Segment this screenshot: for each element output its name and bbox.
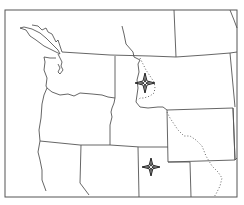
map-canvas	[0, 0, 244, 205]
ut-co-border	[190, 162, 191, 197]
nd-border-east	[230, 53, 235, 107]
or-coast	[38, 57, 47, 191]
or-south-border	[40, 141, 110, 145]
id-mt-border	[122, 26, 167, 110]
wyoming-border	[167, 108, 235, 162]
state-borders	[38, 10, 237, 197]
map-frame	[5, 10, 237, 197]
id-south-border	[110, 145, 168, 147]
mt-nd-border	[174, 10, 176, 57]
star-marker-south[interactable]	[142, 158, 160, 176]
sd-east-border	[233, 108, 235, 160]
coastline-detail	[20, 25, 63, 74]
nv-ut-border	[138, 147, 139, 197]
vancouver-island	[20, 27, 60, 54]
dotted-boundary	[138, 58, 222, 197]
ca-nv-border	[80, 145, 89, 195]
puget-sound	[58, 54, 63, 74]
wa-or-border	[47, 88, 115, 98]
bc-ab-border	[230, 10, 237, 28]
canada-border	[62, 52, 237, 57]
strait-juan-de-fuca	[44, 57, 56, 58]
or-id-border	[110, 98, 115, 145]
